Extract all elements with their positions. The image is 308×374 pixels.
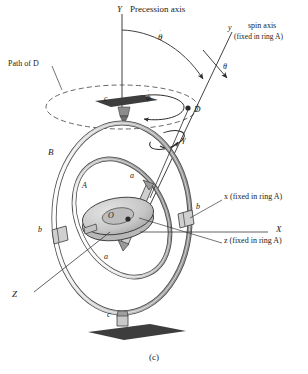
phi-dot-mark: ˙ [147,89,149,96]
label-point-D: D [194,105,201,114]
spin-axis-line [150,32,232,205]
label-bearing-b-right: b [196,203,200,211]
theta-dot-mark: ˙ [159,29,161,36]
label-Y-axis: Y [117,5,122,14]
label-y-small: y [228,24,232,32]
rotor-disk [79,192,156,246]
label-precession-axis: Precession axis [130,5,185,14]
label-theta: θ [223,63,227,71]
label-bearing-b-left: b [38,226,42,234]
theta-dot-arc [122,30,203,79]
label-spin-axis-line2: (fixed in ring A) [234,33,283,41]
label-bearing-c-bottom: c [107,311,111,319]
label-X-axis: X [276,225,282,234]
label-z-fixed: z (fixed in ring A) [224,237,282,245]
label-x-fixed: x (fixed in ring A) [224,193,282,201]
label-point-O: O [108,212,114,220]
label-bearing-a-top: a [130,172,134,180]
gyroscope-diagram [0,0,308,374]
label-gamma-dot: ˙ γ [182,135,186,144]
point-D-marker [185,105,190,110]
label-bearing-c-top: c [104,95,108,103]
D-to-ring-leader [150,110,188,198]
label-Z-axis: Z [12,290,17,299]
label-bearing-a-bottom: a [104,253,108,261]
label-spin-axis-line1: spin axis [248,22,276,30]
figure-caption: (c) [0,352,308,362]
bearing-c-bottom [88,311,186,340]
gamma-dot-mark: ˙ [183,131,185,138]
label-ring-A: A [82,182,87,190]
path-of-D-leader [52,66,62,90]
x-fixed-leader [190,200,222,218]
label-path-of-D: Path of D [8,60,39,68]
label-theta-dot: ˙ θ [158,33,162,42]
label-phi-dot: ˙ ϕ [146,93,151,102]
label-ring-B: B [48,148,54,157]
